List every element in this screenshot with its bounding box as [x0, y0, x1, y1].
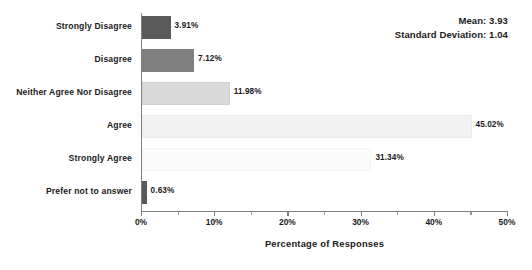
bar-chart: Mean: 3.93 Standard Deviation: 1.04 Stro…: [0, 0, 532, 270]
x-minor-tick-mark: [470, 212, 471, 215]
x-minor-tick-mark: [251, 212, 252, 215]
bar-value-label: 11.98%: [234, 87, 262, 96]
bar: [142, 16, 171, 39]
x-tick-label: 20%: [267, 217, 307, 227]
plot-area: Strongly Disagree3.91%Disagree7.12%Neith…: [0, 0, 532, 270]
bar: [142, 148, 371, 171]
x-axis-title: Percentage of Responses: [141, 238, 508, 249]
x-tick-mark: [141, 212, 142, 216]
bar-container: [142, 16, 171, 39]
bar: [142, 181, 147, 204]
x-tick-mark: [287, 212, 288, 216]
bar-container: [142, 181, 147, 204]
bar: [142, 49, 194, 72]
bar-value-label: 3.91%: [175, 21, 199, 30]
x-tick-label: 0%: [121, 217, 161, 227]
bar-row: Strongly Disagree3.91%: [0, 15, 532, 48]
bar-value-label: 45.02%: [476, 120, 504, 129]
x-tick-mark: [434, 212, 435, 216]
bar-container: [142, 49, 194, 72]
bar-value-label: 0.63%: [151, 186, 175, 195]
bar-row: Prefer not to answer0.63%: [0, 180, 532, 213]
bar-value-label: 31.34%: [375, 153, 403, 162]
category-label: Disagree: [0, 54, 132, 64]
x-tick-mark: [361, 212, 362, 216]
x-tick-label: 40%: [414, 217, 454, 227]
bar-row: Disagree7.12%: [0, 48, 532, 81]
bar-container: [142, 148, 371, 171]
x-minor-tick-mark: [397, 212, 398, 215]
bar-row: Agree45.02%: [0, 114, 532, 147]
category-label: Agree: [0, 120, 132, 130]
x-minor-tick-mark: [324, 212, 325, 215]
bar: [142, 82, 230, 105]
bar-container: [142, 115, 472, 138]
category-label: Prefer not to answer: [0, 186, 132, 196]
x-minor-tick-mark: [178, 212, 179, 215]
category-label: Neither Agree Nor Disagree: [0, 87, 132, 97]
x-tick-mark: [214, 212, 215, 216]
x-tick-label: 50%: [487, 217, 527, 227]
bar: [142, 115, 472, 138]
x-tick-mark: [507, 212, 508, 216]
bar-value-label: 7.12%: [198, 54, 222, 63]
bar-rows: Strongly Disagree3.91%Disagree7.12%Neith…: [0, 15, 532, 213]
category-label: Strongly Disagree: [0, 21, 132, 31]
bar-row: Strongly Agree31.34%: [0, 147, 532, 180]
bar-container: [142, 82, 230, 105]
category-label: Strongly Agree: [0, 153, 132, 163]
bar-row: Neither Agree Nor Disagree11.98%: [0, 81, 532, 114]
x-tick-label: 30%: [341, 217, 381, 227]
x-tick-label: 10%: [194, 217, 234, 227]
